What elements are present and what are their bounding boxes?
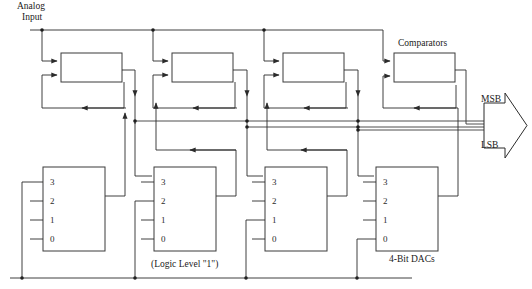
- dac-3-pin-0: 0: [272, 234, 277, 244]
- analog-input-label: AnalogInput: [17, 1, 45, 22]
- comparators-label: Comparators: [398, 38, 447, 49]
- code-to-dac-2: [247, 127, 263, 176]
- dac-4-pin-0: 0: [383, 234, 388, 244]
- dac-4-pin-2: 2: [383, 196, 388, 206]
- dac-block-3: [244, 167, 327, 280]
- dac-4-pin-3: 3: [383, 177, 388, 187]
- comparator-block-4: [394, 53, 455, 82]
- dac-1-pin-2: 2: [50, 196, 55, 206]
- comparator-block-2: [172, 53, 233, 82]
- dac-2-pin-0: 0: [161, 234, 166, 244]
- analog-input-line2: Input: [22, 12, 45, 23]
- dac-2-pin-1: 1: [161, 215, 166, 225]
- logic-level-label: (Logic Level "1"): [151, 259, 218, 270]
- dac-1-pin-1: 1: [50, 215, 55, 225]
- dac-1-pin-3: 3: [50, 177, 55, 187]
- diagram-canvas: [0, 0, 532, 289]
- dacs-label: 4-Bit DACs: [389, 254, 435, 265]
- dac-2-pin-2: 2: [161, 196, 166, 206]
- dac-4-pin-1: 1: [383, 215, 388, 225]
- dac-3-pin-1: 1: [272, 215, 277, 225]
- dac-block-1: [20, 167, 105, 280]
- code-to-dac-3: [358, 130, 374, 176]
- comparator-out-4: [455, 70, 466, 124]
- dac-3-pin-2: 2: [272, 196, 277, 206]
- analog-input-line1: Analog: [17, 1, 45, 11]
- dac-out-up-1: [105, 113, 125, 196]
- comparator-block-3: [283, 53, 344, 82]
- digital-output-bus: [133, 119, 484, 132]
- comparator-block-1: [61, 53, 122, 82]
- dac-1-pin-0: 0: [50, 234, 55, 244]
- code-to-dac-1: [135, 121, 152, 176]
- lsb-label: LSB: [481, 140, 498, 151]
- adc-block-diagram: AnalogInput Comparators MSB LSB (Logic L…: [0, 0, 532, 289]
- dac-3-pin-3: 3: [272, 177, 277, 187]
- msb-label: MSB: [481, 94, 501, 105]
- dac-2-pin-3: 3: [161, 177, 166, 187]
